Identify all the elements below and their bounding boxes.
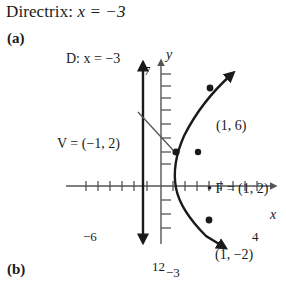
parabola-curve (175, 74, 232, 247)
vertex-point (172, 148, 179, 155)
point-1-neg2-label: (1, −2) (215, 248, 253, 262)
directrix-heading: Directrix: x = −3 (6, 2, 126, 22)
parabola-figure: D: x = −3 V = (−1, 2) • F = (1, 2) (1, 6… (0, 38, 286, 258)
focus-point (195, 149, 201, 155)
page-number: 12 (152, 259, 165, 275)
vertex-label: V = (−1, 2) (57, 137, 120, 151)
x-axis-label: x (270, 208, 276, 222)
directrix-heading-text: Directrix: (6, 2, 73, 21)
y-tick-label-7: 7 (144, 64, 151, 77)
point-1-6-label: (1, 6) (216, 119, 246, 133)
parabola-plot (0, 38, 286, 258)
y-tick-label-neg3: −3 (166, 266, 180, 279)
point-1-6 (207, 85, 214, 92)
focus-label: • F = (1, 2) (207, 182, 268, 196)
part-label-b: (b) (7, 261, 25, 278)
x-tick-label-4: 4 (252, 230, 259, 243)
directrix-equation-label: D: x = −3 (66, 52, 120, 66)
directrix-heading-equation: x = −3 (77, 2, 125, 21)
y-axis-ticks (161, 74, 171, 228)
y-axis-label: y (166, 48, 172, 62)
x-tick-label-neg6: −6 (83, 230, 97, 243)
point-1-neg2 (206, 217, 213, 224)
